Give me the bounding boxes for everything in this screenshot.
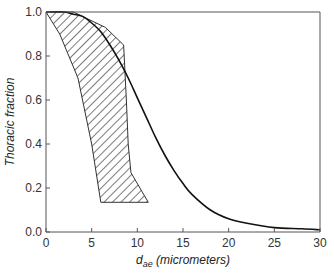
y-tick-label: 1.0 (25, 5, 42, 19)
y-tick-label: 0.4 (25, 137, 42, 151)
thoracic-fraction-chart: 051015202530 0.00.20.40.60.81.0 Thoracic… (0, 0, 334, 273)
y-tick-label: 0.8 (25, 49, 42, 63)
x-tick-label: 10 (131, 236, 145, 250)
x-tick-label: 30 (313, 236, 327, 250)
y-tick-label: 0.2 (25, 181, 42, 195)
x-tick-label: 15 (176, 236, 190, 250)
y-axis-label: Thoracic fraction (3, 77, 17, 166)
plot-area (46, 12, 320, 232)
x-axis-label: dae (micrometers) (136, 253, 230, 269)
x-tick-label: 20 (222, 236, 236, 250)
y-tick-label: 0.6 (25, 93, 42, 107)
x-tick-label: 5 (88, 236, 95, 250)
x-tick-label: 25 (268, 236, 282, 250)
x-tick-label: 0 (43, 236, 50, 250)
y-tick-label: 0.0 (25, 225, 42, 239)
